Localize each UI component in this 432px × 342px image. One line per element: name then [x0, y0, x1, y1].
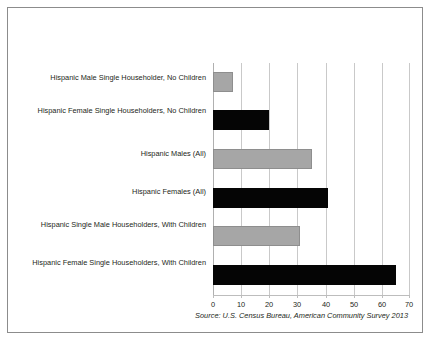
gridline-30: [297, 63, 298, 295]
category-label: Hispanic Male Single Householder, No Chi…: [10, 73, 206, 83]
tick-mark: [241, 295, 242, 298]
category-label: Hispanic Females (All): [10, 187, 206, 197]
tick-mark: [382, 295, 383, 298]
bar-hispanic-female-single-householders-no-children: [213, 110, 269, 130]
bar-hispanic-male-single-householder-no-children: [213, 72, 233, 92]
category-label: Hispanic Female Single Householders, Wit…: [10, 258, 206, 268]
bar-hispanic-females-all: [213, 188, 328, 208]
gridline-50: [354, 63, 355, 295]
x-tick-label: 40: [314, 300, 338, 309]
gridline-60: [382, 63, 383, 295]
x-tick-label: 60: [370, 300, 394, 309]
plot-area: [206, 63, 409, 295]
gridline-20: [269, 63, 270, 295]
x-tick-label: 20: [257, 300, 281, 309]
tick-mark: [269, 295, 270, 298]
tick-mark: [409, 295, 410, 298]
x-tick-label: 50: [342, 300, 366, 309]
bar-hispanic-males-all: [213, 149, 312, 169]
bar-hispanic-single-male-householders-with-children: [213, 226, 300, 246]
gridline-70: [409, 63, 410, 295]
gridline-40: [326, 63, 327, 295]
category-label: Hispanic Single Male Householders, With …: [10, 220, 206, 230]
gridline-10: [241, 63, 242, 295]
bar-hispanic-female-single-householders-with-children: [213, 265, 396, 285]
category-label-group: Hispanic Male Single Householder, No Chi…: [8, 63, 206, 295]
x-tick-label: 10: [229, 300, 253, 309]
x-tick-label: 0: [201, 300, 225, 309]
category-label: Hispanic Female Single Householders, No …: [10, 106, 206, 116]
x-tick-label: 30: [285, 300, 309, 309]
tick-mark: [213, 295, 214, 298]
category-label: Hispanic Males (All): [10, 149, 206, 159]
tick-mark: [297, 295, 298, 298]
tick-mark: [326, 295, 327, 298]
chart-figure: Hispanic Male Single Householder, No Chi…: [7, 7, 423, 333]
axis-area: [213, 63, 410, 295]
x-axis: 0 10 20 30 40 50 60 70: [213, 295, 410, 296]
gridline-0: [213, 63, 214, 295]
tick-mark: [354, 295, 355, 298]
source-note: Source: U.S. Census Bureau, American Com…: [195, 311, 408, 320]
x-tick-label: 70: [397, 300, 421, 309]
